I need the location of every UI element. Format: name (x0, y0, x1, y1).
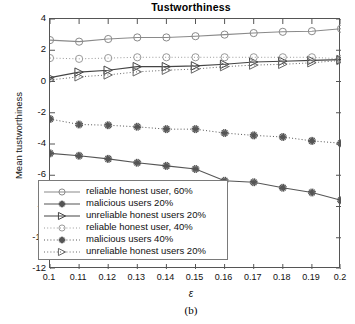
legend-circle-icon (42, 220, 82, 232)
legend-triangle-right-icon (42, 244, 82, 256)
legend-item-label: malicious users 20% (82, 197, 173, 208)
legend-item[interactable]: unreliable honest users 20% (42, 208, 223, 220)
chart-legend: reliable honest user, 60%malicious users… (38, 180, 228, 260)
legend-item-label: reliable honest user, 40% (82, 221, 193, 232)
y-tick-label: -2 (18, 106, 46, 117)
y-tick-label: -4 (18, 137, 46, 148)
figure-container: Tustworthiness Mean tustworthiness 420-2… (0, 0, 355, 324)
legend-item-label: unreliable honest users 20% (82, 209, 206, 220)
legend-item[interactable]: reliable honest user, 40% (42, 220, 223, 232)
legend-item-label: malicious users 40% (82, 233, 173, 244)
y-tick-label: -6 (18, 168, 46, 179)
x-axis-label: ε (40, 288, 342, 299)
legend-item[interactable]: malicious users 20% (42, 196, 223, 208)
legend-item-label: reliable honest user, 60% (82, 185, 193, 196)
legend-circle-icon (42, 184, 82, 196)
figure-caption: (b) (40, 304, 342, 316)
x-tick-label: 0.2 (323, 272, 355, 282)
x-axis-tick-labels: 0.10.110.120.130.140.150.160.170.180.190… (49, 272, 340, 286)
page-title: Tustworthiness (40, 1, 342, 13)
legend-item[interactable]: reliable honest user, 60% (42, 184, 223, 196)
y-tick-label: 4 (18, 12, 46, 23)
legend-item[interactable]: unreliable honest users 20% (42, 244, 223, 256)
legend-item[interactable]: malicious users 40% (42, 232, 223, 244)
legend-asterisk-icon (42, 232, 82, 244)
legend-triangle-right-icon (42, 208, 82, 220)
legend-asterisk-icon (42, 196, 82, 208)
legend-item-label: unreliable honest users 20% (82, 245, 206, 256)
y-tick-label: 2 (18, 43, 46, 54)
y-tick-label: 0 (18, 75, 46, 86)
